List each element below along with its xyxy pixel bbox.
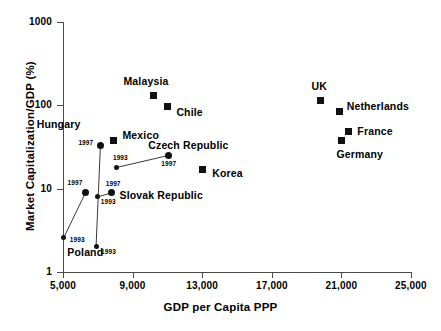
series-label: Hungary — [0, 119, 80, 130]
data-point-label: Chile — [176, 107, 202, 118]
x-tick-label: 13,000 — [172, 281, 232, 291]
data-point-label: Germany — [336, 149, 383, 160]
data-point-label: Malaysia — [123, 76, 168, 87]
y-tick-mark — [57, 189, 63, 190]
data-point-label: Netherlands — [347, 101, 409, 112]
data-point-marker — [61, 235, 66, 240]
x-tick-label: 25,000 — [381, 281, 441, 291]
data-point-marker — [108, 189, 115, 196]
x-tick-mark — [202, 272, 203, 278]
series-label: Poland — [67, 247, 103, 258]
data-point-marker — [110, 137, 117, 144]
observation-year-label: 1997 — [106, 180, 121, 187]
x-tick-mark — [411, 272, 412, 278]
x-tick-label: 21,000 — [311, 281, 371, 291]
data-point-marker — [317, 97, 324, 104]
observation-year-label: 1997 — [161, 160, 176, 167]
x-axis-line — [63, 272, 411, 273]
x-tick-label: 17,000 — [242, 281, 302, 291]
data-point-marker — [165, 152, 172, 159]
x-tick-label: 9,000 — [103, 281, 163, 291]
x-tick-mark — [341, 272, 342, 278]
observation-year-label: 1993 — [101, 198, 116, 205]
data-point-marker — [97, 142, 104, 149]
observation-year-label: 1993 — [113, 154, 128, 161]
observation-year-label: 1997 — [78, 139, 93, 146]
scatter-chart: 1000100101 5,0009,00013,00017,00021,0002… — [0, 0, 441, 331]
data-point-marker — [95, 194, 100, 199]
y-tick-label: 1000 — [0, 17, 52, 27]
x-axis-title: GDP per Capita PPP — [0, 301, 441, 313]
data-point-marker — [114, 165, 119, 170]
y-tick-mark — [57, 22, 63, 23]
y-axis-title: Market Capitalization/GDP (%) — [24, 31, 36, 261]
series-label: Slovak Republic — [120, 190, 203, 201]
y-tick-mark — [57, 105, 63, 106]
data-point-marker — [82, 189, 89, 196]
observation-year-label: 1997 — [68, 179, 83, 186]
x-tick-label: 5,000 — [33, 281, 93, 291]
observation-year-label: 1993 — [70, 236, 85, 243]
y-tick-label: 1 — [0, 267, 52, 277]
data-point-label: France — [357, 126, 392, 137]
x-tick-mark — [133, 272, 134, 278]
observation-year-label: 1993 — [101, 248, 116, 255]
data-point-marker — [345, 128, 352, 135]
x-tick-mark — [272, 272, 273, 278]
data-point-marker — [199, 166, 206, 173]
data-point-marker — [338, 137, 345, 144]
x-tick-mark — [63, 272, 64, 278]
data-point-label: UK — [312, 81, 327, 92]
data-point-marker — [150, 92, 157, 99]
data-point-label: Korea — [212, 168, 243, 179]
series-label: Czech Republic — [148, 140, 228, 151]
data-point-marker — [336, 108, 343, 115]
series-connector-line — [64, 192, 86, 237]
data-point-marker — [164, 103, 171, 110]
